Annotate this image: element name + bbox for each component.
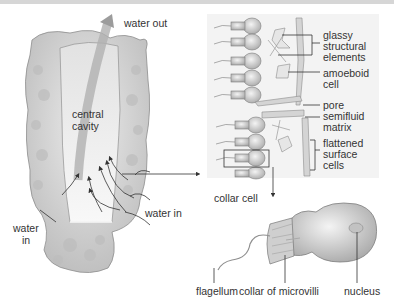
label-collar-microvilli: collar of microvilli xyxy=(239,286,319,297)
label-glassy-3: elements xyxy=(323,52,366,63)
label-semifluid-2: matrix xyxy=(323,122,352,133)
label-collar-cell: collar cell xyxy=(214,193,258,204)
label-water-in-left-1: water xyxy=(13,223,39,234)
nucleus-shape xyxy=(349,223,363,233)
label-amoeboid-2: cell xyxy=(323,79,339,90)
collar-cells-column xyxy=(214,18,269,179)
label-water-out: water out xyxy=(124,18,167,29)
flagellum-shape xyxy=(218,235,270,270)
sponge-wall xyxy=(255,18,310,176)
label-flagellum: flagellum xyxy=(196,286,238,297)
sponge-body xyxy=(25,30,149,272)
label-central-cavity-1: central xyxy=(72,109,104,120)
label-water-in-right: water in xyxy=(145,208,182,219)
collar-cell-enlarged xyxy=(218,203,377,270)
label-flattened-3: cells xyxy=(323,160,344,171)
label-central-cavity-2: cavity xyxy=(72,121,99,132)
label-nucleus: nucleus xyxy=(344,286,380,297)
label-water-in-left-2: in xyxy=(22,235,30,246)
